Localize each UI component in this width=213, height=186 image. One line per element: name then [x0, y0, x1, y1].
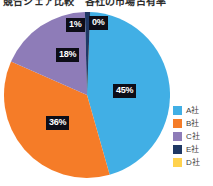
legend-item-e[interactable]: E社: [173, 143, 213, 156]
pie-slice-group: [4, 12, 170, 178]
pie-chart-svg: [0, 6, 170, 186]
pie-chart-screenshot: 競合シェア比較 各社の市場占有率 1% 0% 18% 45% 36% A社 B社…: [0, 0, 213, 186]
legend-swatch-c-icon: [173, 132, 182, 141]
legend-item-d[interactable]: D社: [173, 156, 213, 169]
legend-swatch-d-icon: [173, 158, 182, 167]
legend-label-c: C社: [186, 133, 200, 141]
slice-label-a: 45%: [113, 84, 136, 98]
slice-label-c: 18%: [56, 48, 79, 62]
legend-label-e: E社: [186, 146, 199, 154]
legend-item-c[interactable]: C社: [173, 130, 213, 143]
legend-swatch-b-icon: [173, 119, 182, 128]
pie-chart-area: [0, 6, 170, 186]
legend-swatch-e-icon: [173, 145, 182, 154]
legend-swatch-a-icon: [173, 106, 182, 115]
legend-item-b[interactable]: B社: [173, 117, 213, 130]
slice-label-b: 36%: [46, 116, 69, 130]
legend-label-d: D社: [186, 159, 200, 167]
legend-label-a: A社: [186, 107, 199, 115]
legend-label-b: B社: [186, 120, 199, 128]
legend-item-a[interactable]: A社: [173, 104, 213, 117]
chart-legend: A社 B社 C社 E社 D社: [173, 104, 213, 169]
slice-label-d: 0%: [89, 16, 108, 30]
slice-label-e: 1%: [66, 18, 85, 32]
